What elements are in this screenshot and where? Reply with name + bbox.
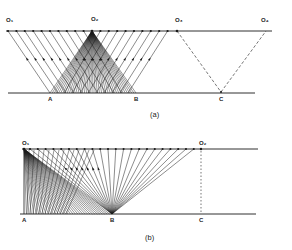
label-a-o2: O₂	[91, 16, 99, 22]
dashed-ray-o3-c	[177, 31, 221, 92]
label-a-a: A	[48, 96, 53, 102]
label-b-a: A	[22, 217, 27, 223]
panel-b	[20, 148, 258, 214]
label-a-c: C	[219, 96, 224, 102]
label-b-o1: O₁	[22, 140, 30, 146]
label-a-o1: O₁	[6, 17, 14, 23]
figure-canvas: O₁ O₂ O₃ O₄ A B C (a) O₁ O₂ A B C (b)	[0, 0, 292, 250]
dashed-ray-c-o4	[221, 31, 266, 92]
label-b-o2: O₂	[199, 140, 207, 146]
caption-a: (a)	[150, 110, 160, 119]
label-b-c: C	[199, 217, 204, 223]
label-a-o3: O₃	[175, 17, 183, 23]
caption-b: (b)	[145, 233, 155, 242]
label-a-b: B	[134, 96, 139, 102]
panel-a	[6, 30, 272, 93]
ray-fan-b	[24, 149, 112, 214]
label-b-b: B	[110, 217, 115, 223]
source-dots-a	[7, 30, 222, 93]
label-a-o4: O₄	[261, 17, 269, 23]
